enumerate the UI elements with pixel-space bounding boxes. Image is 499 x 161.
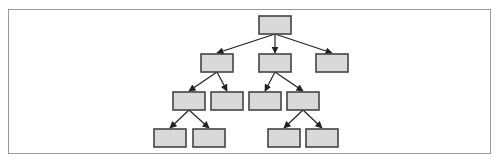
tree-node-n3 — [316, 54, 348, 72]
tree-node-root — [259, 16, 291, 34]
edge-arrow-root-to-n3 — [275, 34, 332, 53]
tree-node-n1a — [173, 92, 205, 110]
tree-node-n1a1 — [154, 129, 186, 147]
edge-arrow-n1-to-n1b — [217, 72, 227, 91]
tree-diagram — [0, 0, 499, 161]
tree-node-n1 — [201, 54, 233, 72]
edge-arrow-n2b-to-n2b2 — [303, 110, 322, 128]
tree-node-n1a2 — [193, 129, 225, 147]
edge-arrow-n2-to-n2a — [265, 72, 275, 91]
edge-arrow-n2-to-n2b — [275, 72, 303, 91]
tree-node-n2a — [249, 92, 281, 110]
edges-layer — [170, 34, 332, 128]
tree-node-n2b2 — [306, 129, 338, 147]
tree-node-n2 — [259, 54, 291, 72]
tree-node-n1b — [211, 92, 243, 110]
edge-arrow-root-to-n1 — [217, 34, 275, 53]
tree-node-n2b1 — [268, 129, 300, 147]
edge-arrow-n2b-to-n2b1 — [284, 110, 303, 128]
edge-arrow-n1-to-n1a — [189, 72, 217, 91]
nodes-layer — [154, 16, 348, 147]
edge-arrow-n1a-to-n1a2 — [189, 110, 209, 128]
tree-node-n2b — [287, 92, 319, 110]
edge-arrow-n1a-to-n1a1 — [170, 110, 189, 128]
